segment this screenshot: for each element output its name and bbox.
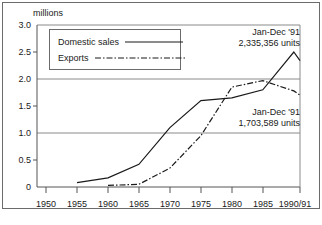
legend-label-exports: Exports: [58, 53, 89, 63]
annotation-domestic-sales: Jan-Dec '91 2,335,356 units: [238, 27, 300, 49]
annotation-exports: Jan-Dec '91 1,703,589 units: [238, 107, 300, 129]
legend-item-domestic-sales: Domestic sales: [58, 35, 183, 49]
legend-swatch-dashdot-line: [95, 54, 187, 62]
annotation-exports-line2: 1,703,589 units: [238, 118, 300, 129]
annotation-exports-line1: Jan-Dec '91: [238, 107, 300, 118]
legend-swatch-solid-line: [125, 38, 183, 46]
annotation-domestic-sales-line1: Jan-Dec '91: [238, 27, 300, 38]
chart-legend: Domestic sales Exports: [49, 29, 181, 70]
legend-item-exports: Exports: [58, 51, 187, 65]
annotation-domestic-sales-line2: 2,335,356 units: [238, 38, 300, 49]
legend-label-domestic-sales: Domestic sales: [58, 37, 119, 47]
chart-figure: millions 3.0 2.5 2.0 1.5 1.0 0.5 0 1950 …: [0, 0, 322, 225]
